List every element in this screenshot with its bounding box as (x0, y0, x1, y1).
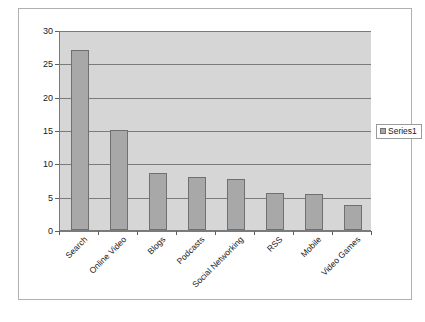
x-axis-label-text: Podcasts (175, 235, 206, 266)
x-axis-label-text: Blogs (145, 235, 166, 256)
x-axis-label-text: Mobile (299, 235, 323, 259)
bar-slot (138, 31, 177, 230)
x-axis-label-text: Video Games (319, 235, 361, 277)
bar-video-games[interactable] (344, 205, 362, 230)
legend-label-series1: Series1 (388, 127, 417, 136)
chart-container: 051015202530 SearchOnline VideoBlogsPodc… (18, 8, 412, 300)
y-axis-tick-label: 20 (43, 93, 53, 102)
bar-search[interactable] (71, 50, 89, 230)
bar-slot (177, 31, 216, 230)
bar-series-series1 (60, 31, 371, 230)
legend-swatch-series1 (380, 128, 386, 134)
bar-slot (99, 31, 138, 230)
bar-slot (333, 31, 372, 230)
y-axis-tick-label: 10 (43, 160, 53, 169)
y-axis-tick-label: 0 (48, 227, 53, 236)
y-axis-tick-label: 25 (43, 60, 53, 69)
bar-online-video[interactable] (110, 130, 128, 230)
bar-podcasts[interactable] (188, 177, 206, 230)
plot-area (59, 31, 371, 231)
x-axis-label-text: Online Video (87, 235, 127, 275)
bar-mobile[interactable] (305, 194, 323, 230)
bar-social-networking[interactable] (227, 179, 245, 230)
y-axis-tick-label: 5 (48, 193, 53, 202)
x-axis-labels: SearchOnline VideoBlogsPodcastsSocial Ne… (59, 235, 371, 305)
y-axis-tick-label: 30 (43, 27, 53, 36)
bar-slot (60, 31, 99, 230)
bar-slot (294, 31, 333, 230)
x-axis-label-text: Search (63, 235, 88, 260)
bar-slot (216, 31, 255, 230)
x-axis-label-text: RSS (265, 235, 283, 253)
y-axis: 051015202530 (19, 9, 59, 231)
y-axis-tick-label: 15 (43, 127, 53, 136)
chart-legend: Series1 (376, 124, 422, 139)
